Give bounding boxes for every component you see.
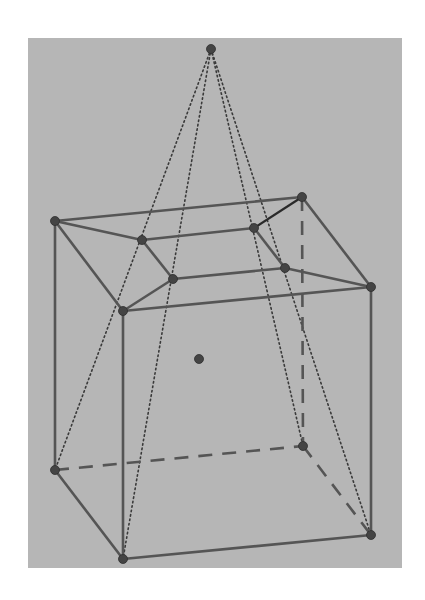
- vertex-center: [195, 355, 204, 364]
- vertex-inner-front-left: [169, 275, 178, 284]
- geometry-diagram: [0, 0, 425, 600]
- vertex-bottom-front-right: [367, 531, 376, 540]
- vertex-inner-back-left: [138, 236, 147, 245]
- vertex-top-front-left: [119, 307, 128, 316]
- vertex-bottom-back-right: [299, 442, 308, 451]
- vertex-inner-front-right: [281, 264, 290, 273]
- vertex-bottom-back-left: [51, 466, 60, 475]
- vertex-inner-back-right: [250, 224, 259, 233]
- vertex-top-back-right: [298, 193, 307, 202]
- vertex-top-front-right: [367, 283, 376, 292]
- vertex-top-back-left: [51, 217, 60, 226]
- vertex-bottom-front-left: [119, 555, 128, 564]
- vertex-apex: [207, 45, 216, 54]
